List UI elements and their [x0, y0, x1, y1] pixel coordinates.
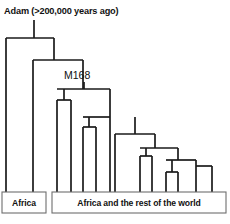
phylogenetic-tree-figure: AfricaAfrica and the rest of the world A…: [0, 0, 230, 224]
tree-branch-lines: [6, 20, 212, 192]
africa-box-label: Africa: [12, 198, 36, 208]
root-title-label: Adam (>200,000 years ago): [4, 6, 119, 16]
world-box-label: Africa and the rest of the world: [77, 198, 200, 208]
tree-group-boxes: AfricaAfrica and the rest of the world: [2, 192, 226, 213]
m168-marker-label: M168: [64, 69, 90, 81]
tree-diagram: AfricaAfrica and the rest of the world A…: [0, 0, 230, 224]
